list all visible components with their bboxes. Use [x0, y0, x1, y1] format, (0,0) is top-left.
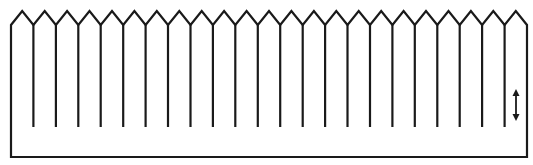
fin-lines [33, 25, 504, 127]
outline-sawtooth [11, 11, 527, 157]
double-arrow-icon [513, 89, 520, 121]
comb-fin-diagram [0, 0, 533, 165]
